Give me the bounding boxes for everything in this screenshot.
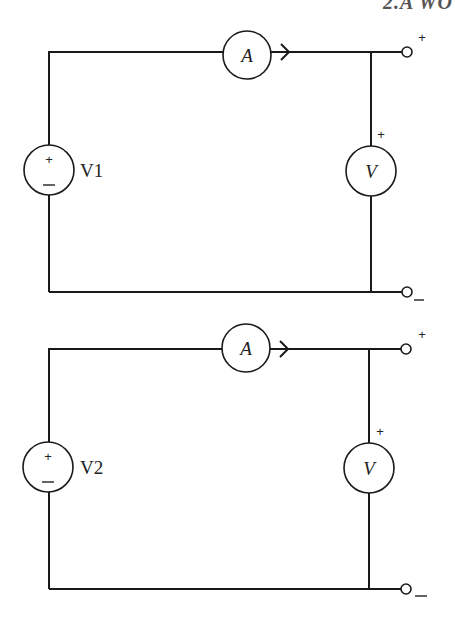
voltage-source: + — [23, 442, 73, 492]
wire-top-left — [49, 52, 223, 145]
terminal-minus[interactable] — [402, 287, 412, 297]
voltmeter: V — [346, 146, 396, 196]
ammeter: A — [223, 31, 271, 79]
terminal-minus[interactable] — [401, 584, 411, 594]
circuit-diagram: A + V1 V + + A — [0, 0, 455, 621]
ammeter-label: A — [238, 338, 252, 359]
terminal-plus-sign: + — [418, 30, 426, 45]
ammeter-label: A — [239, 45, 253, 66]
circuit-2: A + V2 V + + — [23, 324, 427, 596]
source-plus-sign: + — [44, 449, 52, 464]
voltage-source: + — [24, 145, 74, 195]
terminal-plus[interactable] — [401, 344, 411, 354]
source-label: V1 — [80, 160, 103, 181]
wire-top-left — [49, 349, 222, 442]
voltmeter: V — [344, 443, 394, 493]
source-plus-sign: + — [45, 152, 53, 167]
terminal-plus-sign: + — [418, 327, 426, 342]
ammeter: A — [222, 324, 270, 372]
terminal-plus[interactable] — [402, 47, 412, 57]
source-label: V2 — [80, 457, 103, 478]
voltmeter-plus-sign: + — [377, 127, 385, 142]
voltmeter-plus-sign: + — [376, 424, 384, 439]
circuit-1: A + V1 V + + — [24, 30, 426, 300]
